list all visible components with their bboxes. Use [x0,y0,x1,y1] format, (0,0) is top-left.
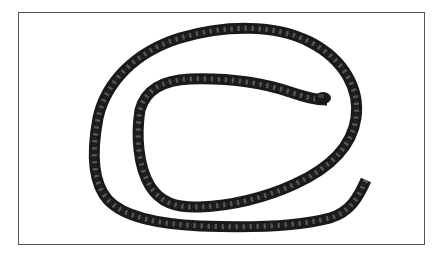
rope-knot [315,92,331,104]
rope-body [94,28,366,226]
rope-illustration [0,0,440,255]
rope-knot-highlight [318,94,324,98]
